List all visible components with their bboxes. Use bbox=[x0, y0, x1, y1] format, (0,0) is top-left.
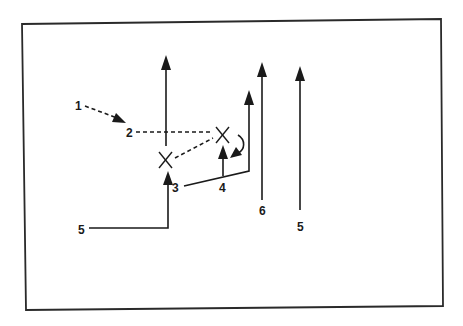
label-1: 1 bbox=[75, 99, 82, 113]
arrowhead-icon bbox=[218, 145, 228, 159]
route-left-x-to-right-x bbox=[175, 138, 213, 158]
arrowhead-icon bbox=[244, 90, 254, 105]
label-4: 4 bbox=[219, 181, 226, 195]
route-3-corner-up bbox=[184, 102, 249, 186]
label-3: 3 bbox=[172, 181, 179, 195]
play-diagram: 1 2 3 4 5 6 5 bbox=[0, 0, 463, 326]
label-5-left: 5 bbox=[78, 223, 85, 237]
diagram-canvas: 1 2 3 4 5 6 5 bbox=[0, 0, 463, 326]
label-5-right: 5 bbox=[297, 220, 304, 234]
route-1-to-2 bbox=[85, 106, 117, 118]
defender-right bbox=[216, 127, 229, 143]
label-2: 2 bbox=[126, 126, 133, 140]
label-6: 6 bbox=[259, 204, 266, 218]
arrowhead-icon bbox=[295, 66, 305, 81]
route-5-to-3 bbox=[89, 182, 168, 228]
arrowhead-icon bbox=[112, 113, 126, 123]
route-curl bbox=[238, 135, 244, 153]
arrowhead-icon bbox=[257, 62, 267, 77]
diagram-frame bbox=[22, 19, 443, 310]
arrowhead-icon bbox=[161, 55, 171, 70]
defender-left bbox=[159, 152, 172, 168]
